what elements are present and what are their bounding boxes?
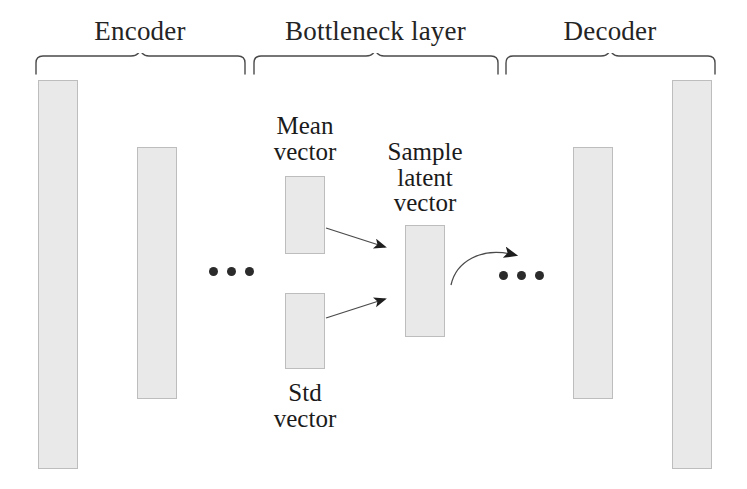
label-sample-latent-line1: Sample xyxy=(360,139,490,165)
bar-decoder-hidden xyxy=(573,147,613,399)
brace-bottleneck xyxy=(253,53,500,75)
bar-std-vector xyxy=(285,293,325,369)
vae-architecture-diagram: Encoder Bottleneck layer Decoder Mean ve… xyxy=(0,0,747,489)
encoder-ellipsis-icon xyxy=(209,267,254,276)
ellipsis-dot xyxy=(245,267,254,276)
arrow-mean-to-sample xyxy=(326,228,385,247)
ellipsis-dot xyxy=(499,271,508,280)
ellipsis-dot xyxy=(517,271,526,280)
label-sample-latent-line2: latent xyxy=(360,165,490,191)
label-mean-vector-line2: vector xyxy=(240,139,370,165)
label-std-vector: Std vector xyxy=(240,380,370,431)
label-sample-latent-line3: vector xyxy=(360,190,490,216)
ellipsis-dot xyxy=(227,267,236,276)
bar-input-layer xyxy=(38,80,78,469)
section-label-decoder: Decoder xyxy=(505,18,715,45)
bar-encoder-hidden xyxy=(137,147,177,399)
ellipsis-dot xyxy=(209,267,218,276)
label-std-vector-line2: vector xyxy=(240,406,370,432)
bar-sample-latent-vector xyxy=(405,225,445,337)
brace-decoder xyxy=(505,53,717,75)
label-mean-vector-line1: Mean xyxy=(240,113,370,139)
brace-encoder xyxy=(35,53,247,75)
section-label-bottleneck: Bottleneck layer xyxy=(253,18,498,45)
arrow-std-to-sample xyxy=(326,299,385,318)
section-label-encoder: Encoder xyxy=(35,18,245,45)
decoder-ellipsis-icon xyxy=(499,271,544,280)
label-std-vector-line1: Std xyxy=(240,380,370,406)
ellipsis-dot xyxy=(535,271,544,280)
arrow-sample-to-decoder xyxy=(451,252,515,285)
label-mean-vector: Mean vector xyxy=(240,113,370,164)
bar-mean-vector xyxy=(285,176,325,254)
bar-output-layer xyxy=(672,80,712,469)
label-sample-latent-vector: Sample latent vector xyxy=(360,139,490,216)
